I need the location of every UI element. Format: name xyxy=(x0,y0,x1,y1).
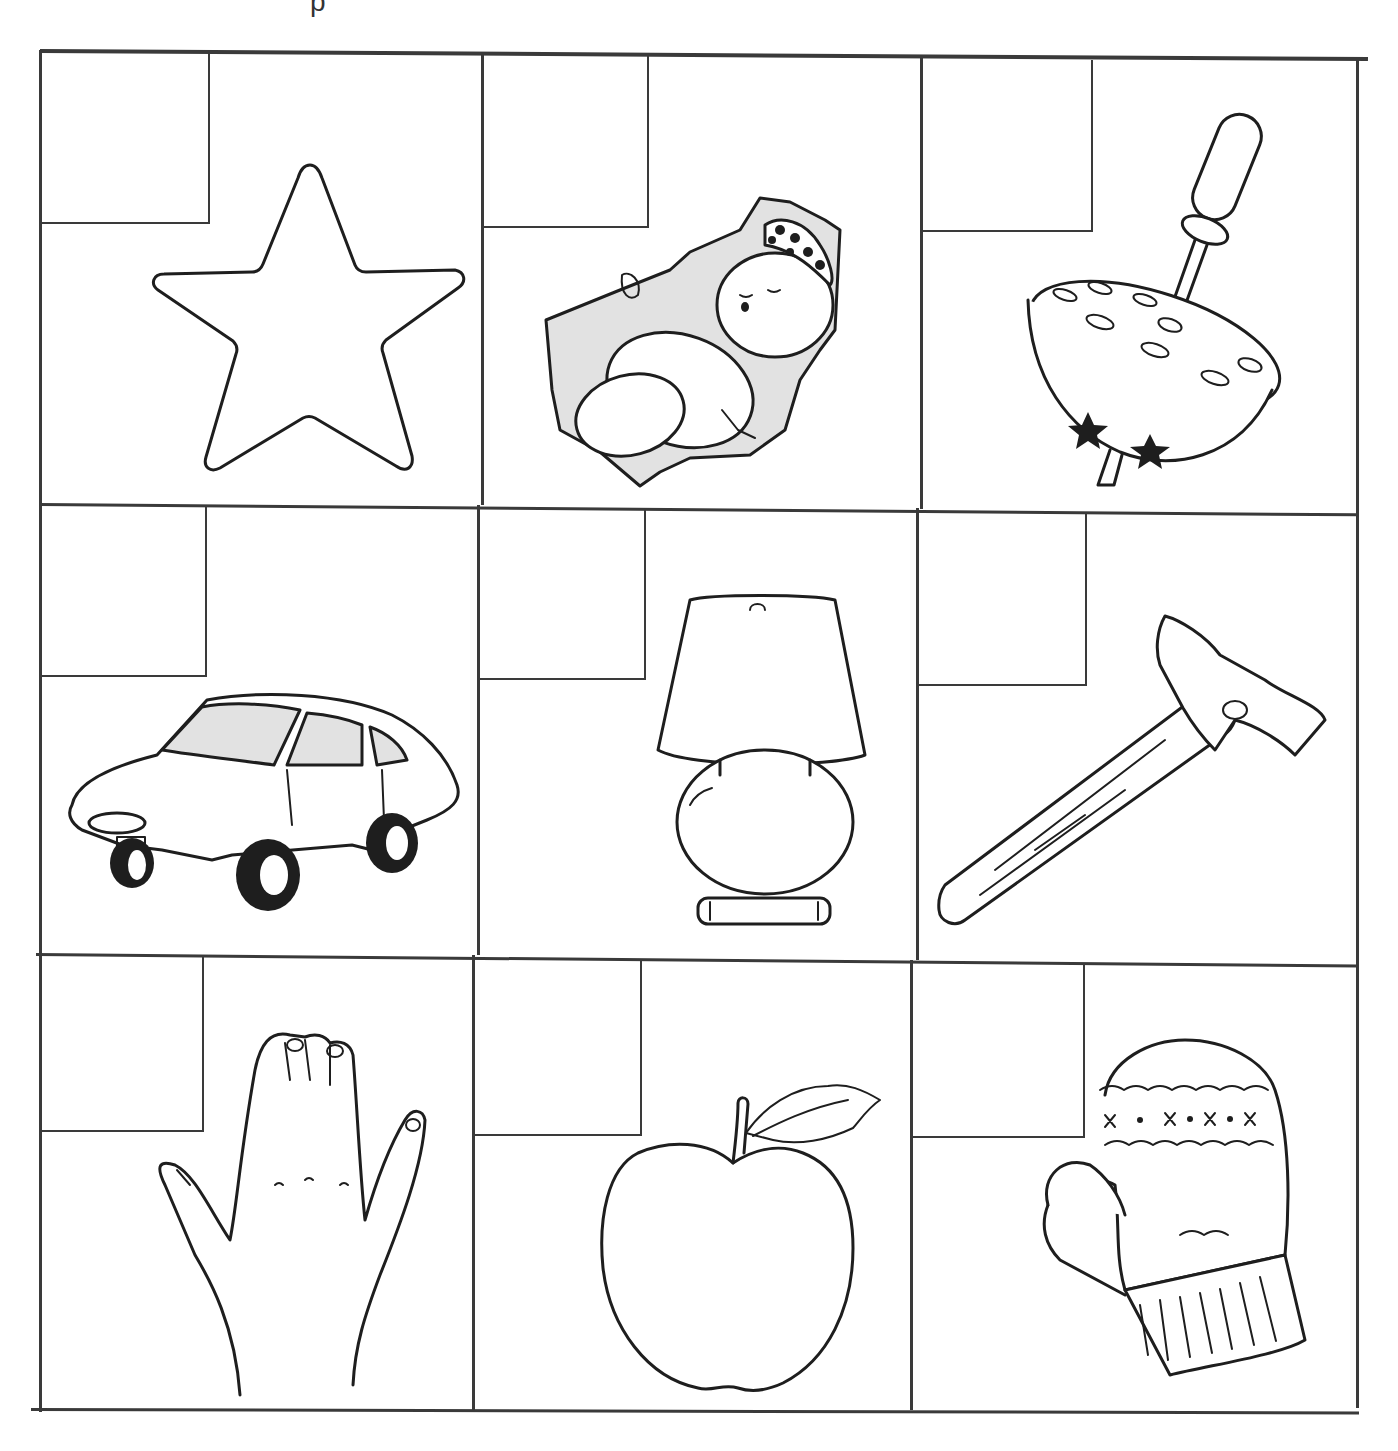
lamp-picture xyxy=(650,590,870,930)
spinning-top-picture xyxy=(1010,100,1300,500)
car-picture xyxy=(62,685,462,915)
answer-box-5[interactable] xyxy=(480,508,646,680)
star-picture xyxy=(150,160,470,480)
grid-border-right xyxy=(1356,58,1359,1408)
grid-row-divider-1 xyxy=(40,503,1358,516)
grid-border-top xyxy=(40,49,1368,61)
grid-border-left xyxy=(39,50,42,1412)
apple-picture xyxy=(598,1078,883,1398)
page-heading-fragment: p xyxy=(310,0,326,18)
grid-row-divider-2 xyxy=(36,953,1358,968)
grid-border-bottom xyxy=(31,1408,1359,1414)
baby-picture xyxy=(540,190,840,490)
answer-box-4[interactable] xyxy=(42,505,207,677)
hand-picture xyxy=(155,1025,430,1405)
hammer-picture xyxy=(935,610,1330,930)
mitten-picture xyxy=(1040,1035,1310,1395)
